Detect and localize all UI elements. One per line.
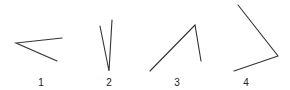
angle-label: 3 bbox=[174, 77, 180, 88]
angle-label: 4 bbox=[243, 77, 249, 88]
angle-rays bbox=[16, 38, 62, 61]
angle-rays bbox=[150, 25, 201, 71]
angles-diagram: 1234 bbox=[0, 0, 290, 90]
angle-rays bbox=[100, 20, 112, 71]
angle-rays bbox=[234, 5, 278, 71]
angle-label: 2 bbox=[106, 77, 112, 88]
angle-figure-1: 1 bbox=[16, 38, 62, 88]
angle-figure-3: 3 bbox=[150, 25, 201, 88]
angle-label: 1 bbox=[38, 77, 44, 88]
angle-figure-2: 2 bbox=[100, 20, 112, 88]
angle-figure-4: 4 bbox=[234, 5, 278, 88]
